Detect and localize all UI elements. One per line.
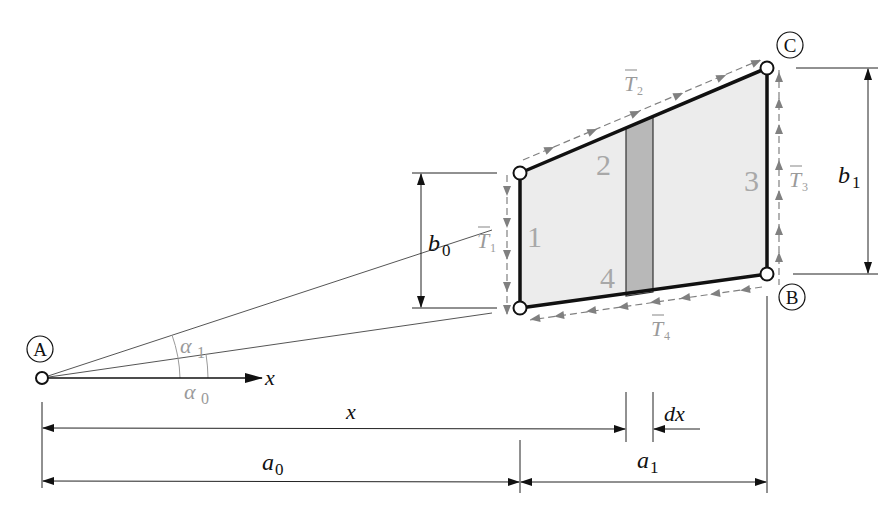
svg-text:b: b [428, 230, 440, 256]
node-a [36, 372, 48, 384]
diagram-canvas: A C B 1 2 3 4 T 1 T 2 T 3 T 4 [0, 0, 896, 518]
svg-text:4: 4 [664, 329, 670, 343]
svg-text:0: 0 [201, 390, 209, 407]
svg-text:b: b [838, 162, 850, 188]
svg-text:1: 1 [197, 344, 205, 361]
label-a: A [33, 339, 47, 360]
svg-text:2: 2 [637, 84, 643, 98]
edge-number-3: 3 [744, 164, 759, 197]
angle-labels: α 1 α 0 [180, 333, 209, 407]
svg-text:T: T [477, 228, 491, 253]
svg-text:1: 1 [490, 241, 496, 255]
label-a1: a 1 [637, 447, 659, 477]
label-t2: T 2 [624, 70, 643, 98]
label-t1: T 1 [477, 227, 496, 255]
node-c [761, 62, 774, 75]
label-b1: b 1 [838, 162, 861, 192]
svg-text:T: T [624, 71, 638, 96]
x-dim-line [43, 428, 625, 429]
dx-dim-label: dx [664, 401, 685, 426]
a0-dim-line [43, 481, 519, 482]
tapered-panel-diagram: A C B 1 2 3 4 T 1 T 2 T 3 T 4 [0, 0, 896, 518]
svg-text:3: 3 [802, 180, 808, 194]
node-b [761, 268, 774, 281]
x-dim-label: x [345, 399, 356, 424]
svg-text:a: a [637, 447, 649, 473]
label-b: B [786, 287, 799, 308]
shear-flow-t3-arrowheads [775, 72, 783, 262]
svg-text:0: 0 [275, 460, 284, 479]
edge-number-4: 4 [600, 261, 615, 294]
label-c: C [784, 35, 797, 56]
svg-text:1: 1 [852, 173, 861, 192]
strip-dx [626, 117, 653, 296]
alpha0-arc [206, 354, 208, 378]
svg-text:a: a [262, 449, 274, 475]
svg-text:1: 1 [650, 458, 659, 477]
panel [520, 68, 767, 308]
x-axis-label: x [264, 365, 275, 390]
edge-number-2: 2 [596, 148, 611, 181]
svg-text:T: T [651, 316, 665, 341]
label-t3: T 3 [789, 166, 808, 194]
svg-text:α: α [184, 379, 196, 404]
label-alpha1: α 1 [180, 333, 205, 361]
edge-number-1: 1 [527, 220, 542, 253]
svg-text:0: 0 [442, 241, 451, 260]
label-a0: a 0 [262, 449, 284, 479]
dimension-b1 [793, 68, 878, 274]
shear-flow-t1-arrowheads [503, 186, 511, 315]
alpha1-arc [172, 335, 180, 378]
node-panel-top-left [514, 167, 527, 180]
rays-from-a [42, 230, 492, 378]
label-t4: T 4 [651, 315, 670, 343]
svg-text:T: T [789, 167, 803, 192]
label-b0: b 0 [428, 230, 451, 260]
ray-alpha1 [42, 230, 492, 378]
svg-text:α: α [180, 333, 192, 358]
node-panel-bottom-left [514, 302, 527, 315]
label-alpha0: α 0 [184, 379, 209, 407]
